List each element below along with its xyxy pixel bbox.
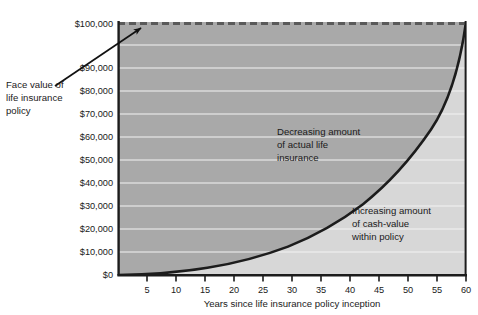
x-axis-title: Years since life insurance policy incept… [204, 298, 381, 309]
y-tick-label: $0 [103, 270, 113, 280]
x-tick-label: 30 [287, 285, 297, 295]
y-tick-label: $60,000 [80, 132, 113, 142]
x-tick-label: 35 [316, 285, 326, 295]
anno-decreasing-line-3: insurance [277, 152, 319, 163]
y-tick-label: $40,000 [80, 178, 113, 188]
y-tick-label: $50,000 [80, 155, 113, 165]
y-tick-label: $90,000 [80, 63, 113, 73]
line-chart: 5 10 15 20 25 30 35 40 45 50 55 60 $0 $1… [0, 0, 478, 315]
y-tick-label: $80,000 [80, 86, 113, 96]
x-tick-label: 45 [374, 285, 384, 295]
anno-increasing-line-3: within policy [351, 231, 404, 242]
x-tick-label: 5 [144, 285, 149, 295]
anno-increasing-line-1: Increasing amount [352, 205, 431, 216]
y-tick-label: $10,000 [80, 247, 113, 257]
x-tick-label: 60 [461, 285, 471, 295]
y-tick-label: $20,000 [80, 224, 113, 234]
x-tick-label: 25 [258, 285, 268, 295]
callout-line-2: life insurance [6, 92, 63, 103]
x-tick-label: 20 [229, 285, 239, 295]
callout-line-1: Face value of [6, 79, 64, 90]
chart-container: 5 10 15 20 25 30 35 40 45 50 55 60 $0 $1… [0, 0, 478, 315]
anno-decreasing-line-1: Decreasing amount [277, 126, 361, 137]
x-tick-label: 40 [345, 285, 355, 295]
x-tick-label: 10 [171, 285, 181, 295]
y-tick-label: $70,000 [80, 109, 113, 119]
x-tick-label: 55 [432, 285, 442, 295]
x-tick-label: 50 [403, 285, 413, 295]
anno-decreasing-line-2: of actual life [277, 139, 328, 150]
anno-increasing-line-2: of cash-value [352, 218, 409, 229]
callout-line-3: policy [6, 105, 31, 116]
x-tick-label: 15 [200, 285, 210, 295]
y-tick-label: $100,000 [75, 19, 113, 29]
y-tick-label: $30,000 [80, 201, 113, 211]
